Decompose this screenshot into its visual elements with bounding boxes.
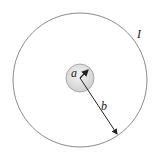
label-b: b xyxy=(101,99,107,113)
label-current: I xyxy=(136,27,142,41)
label-a: a xyxy=(71,66,77,80)
coaxial-diagram: a b I xyxy=(0,0,155,157)
radius-b-arrow xyxy=(80,78,117,134)
